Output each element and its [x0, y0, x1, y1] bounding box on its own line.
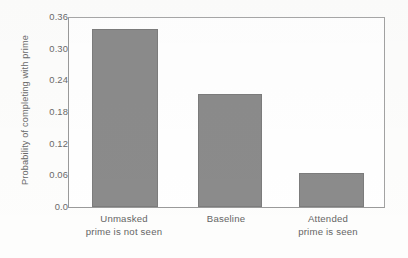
y-tick-label-024: 0.24	[38, 75, 68, 85]
x-tick-label-unmasked: Unmasked prime is not seen	[66, 212, 182, 238]
bar-baseline	[198, 94, 262, 207]
y-tick-label-012: 0.12	[38, 139, 68, 149]
y-tick-label-036: 0.36	[38, 12, 68, 22]
bar-chart-figure: Probability of completing with prime 0.3…	[0, 0, 408, 258]
bar-attended	[299, 173, 364, 207]
y-tick-label-000: 0.0	[38, 202, 68, 212]
bars-layer	[69, 18, 384, 207]
x-tick-label-baseline: Baseline	[172, 212, 280, 225]
bar-unmasked	[92, 29, 158, 208]
y-tick-label-018: 0.18	[38, 107, 68, 117]
x-tick-unmasked-line1: Unmasked	[100, 213, 147, 224]
x-tick-attended-line2: prime is seen	[273, 225, 383, 238]
y-tick-label-030: 0.30	[38, 44, 68, 54]
y-tick-label-006: 0.06	[38, 170, 68, 180]
x-tick-attended-line1: Attended	[308, 213, 348, 224]
x-tick-label-attended: Attended prime is seen	[273, 212, 383, 238]
x-tick-unmasked-line2: prime is not seen	[66, 225, 182, 238]
x-tick-baseline-line1: Baseline	[207, 213, 245, 224]
y-axis-ticks: 0.36 0.30 0.24 0.18 0.12 0.06 0.0	[0, 0, 68, 258]
plot-area	[68, 17, 385, 208]
